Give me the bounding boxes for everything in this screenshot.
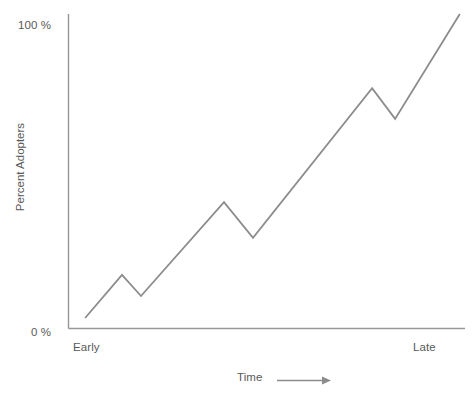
y-axis-tick-label-bottom: 0 %: [31, 326, 51, 338]
series-line-percent-adopters: [85, 14, 460, 318]
y-axis-tick-label-top: 100 %: [18, 19, 51, 31]
chart-canvas: [0, 0, 473, 397]
arrow-right-icon: [277, 377, 331, 385]
x-axis-tick-label-early: Early: [73, 341, 100, 353]
x-axis-title: Time: [237, 371, 263, 383]
x-axis-tick-label-late: Late: [413, 341, 436, 353]
adoption-curve-chart: 100 % 0 % Early Late Percent Adopters Ti…: [0, 0, 473, 397]
y-axis-title: Percent Adopters: [14, 107, 26, 227]
